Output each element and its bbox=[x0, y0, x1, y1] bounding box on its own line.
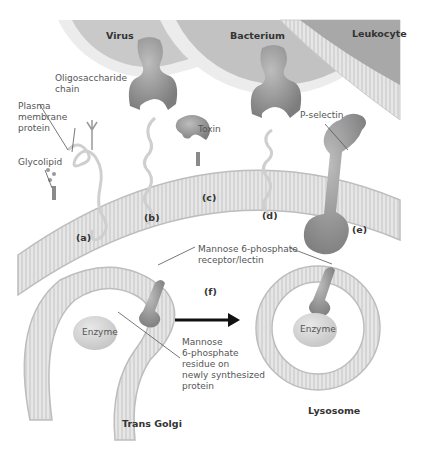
plasma-membrane-protein-label: Plasma membrane protein bbox=[18, 101, 67, 134]
enzyme-lysosome-label: Enzyme bbox=[300, 324, 336, 335]
panel-e: (e) bbox=[352, 224, 367, 235]
enzyme-golgi-label: Enzyme bbox=[82, 327, 118, 338]
lysosome-label: Lysosome bbox=[308, 405, 360, 416]
leukocyte-label: Leukocyte bbox=[352, 28, 407, 39]
oligosaccharide-label: Oligosaccharide chain bbox=[55, 73, 127, 95]
panel-a: (a) bbox=[76, 232, 91, 243]
panel-c: (c) bbox=[202, 192, 216, 203]
toxin-label: Toxin bbox=[198, 124, 221, 135]
panel-f: (f) bbox=[204, 286, 217, 297]
glycolipid-anchor bbox=[52, 186, 56, 200]
virus-label: Virus bbox=[106, 30, 134, 41]
glycolipid-label: Glycolipid bbox=[18, 157, 62, 168]
panel-d: (d) bbox=[262, 210, 277, 221]
arrow-icon bbox=[228, 313, 240, 327]
bacterium-label: Bacterium bbox=[230, 30, 285, 41]
panel-b: (b) bbox=[144, 212, 159, 223]
m6p-receptor-label: Mannose 6-phosphate receptor/lectin bbox=[198, 244, 298, 266]
m6p-residue-label: Mannose 6-phosphate residue on newly syn… bbox=[182, 337, 265, 392]
p-selectin-label: P-selectin bbox=[300, 110, 343, 121]
trans-golgi-label: Trans Golgi bbox=[122, 418, 182, 429]
